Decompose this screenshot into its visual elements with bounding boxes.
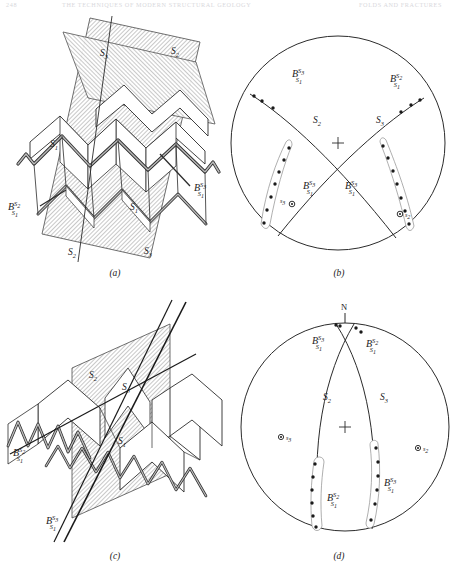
panel-b-stereonet: s3 s2 S2 S3 BS3S1 BS2S1 — [228, 14, 452, 266]
page-header: 248 THE TECHNIQUES OF MODERN STRUCTURAL … — [0, 1, 452, 11]
panel-a-drawing: S3 S2 S1 S1 S2 S3 BS2S1 BS3S1 — [0, 14, 228, 266]
panel-a: S3 S2 S1 S1 S2 S3 BS2S1 BS3S1 — [0, 14, 228, 266]
page-header-middle: THE TECHNIQUES OF MODERN STRUCTURAL GEOL… — [62, 1, 251, 8]
page-header-left: 248 — [6, 1, 17, 8]
panel-a-caption: (a) — [95, 268, 135, 278]
lineation-label-b-s3-s1: BS3S1 — [46, 514, 58, 532]
lineation-label-b-s2-s1: BS2S1 — [8, 200, 20, 218]
panel-c-caption: (c) — [95, 551, 135, 561]
lineation-label-b-s3-s1: BS3S1 — [194, 181, 206, 199]
north-label: N — [341, 302, 347, 312]
panel-d-caption: (d) — [319, 551, 359, 561]
plane-label-s2-bottom: S2 — [68, 247, 77, 259]
panel-d: N — [228, 296, 452, 548]
panel-c: S2 S3 S1 BS2S1 BS3S1 — [0, 296, 228, 548]
panel-d-stereonet: N — [228, 296, 452, 548]
panel-b-caption: (b) — [319, 268, 359, 278]
page-header-right: FOLDS AND FRACTURES — [359, 1, 442, 8]
figure-root: 248 THE TECHNIQUES OF MODERN STRUCTURAL … — [0, 0, 452, 577]
lineation-label-b-s2-s1: BS2S1 — [13, 446, 25, 464]
panel-c-drawing: S2 S3 S1 BS2S1 BS3S1 — [0, 296, 228, 548]
panel-b: s3 s2 S2 S3 BS3S1 BS2S1 — [228, 14, 452, 266]
